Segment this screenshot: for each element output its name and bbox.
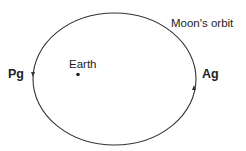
earth-dot	[76, 73, 80, 77]
perigee-label: Pg	[8, 68, 24, 81]
earth-label: Earth	[69, 59, 97, 71]
apogee-label: Ag	[202, 68, 219, 81]
moon-orbit-label: Moon's orbit	[171, 18, 233, 30]
moon-orbit-ellipse	[33, 13, 196, 145]
perigee-arrow-icon	[31, 72, 35, 77]
